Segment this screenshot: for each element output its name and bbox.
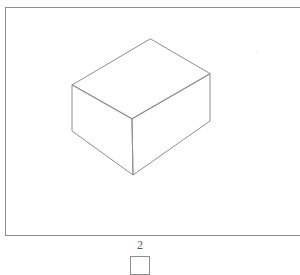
isometric-cuboid: [0, 0, 300, 275]
right-face: [132, 74, 210, 175]
left-face: [72, 85, 133, 175]
caption-box: [130, 256, 150, 275]
top-face: [72, 39, 210, 119]
caption-block: 2: [0, 238, 300, 275]
caption-number: 2: [120, 238, 160, 252]
drawing-canvas: 2: [0, 0, 300, 275]
cuboid-faces: [72, 39, 210, 175]
